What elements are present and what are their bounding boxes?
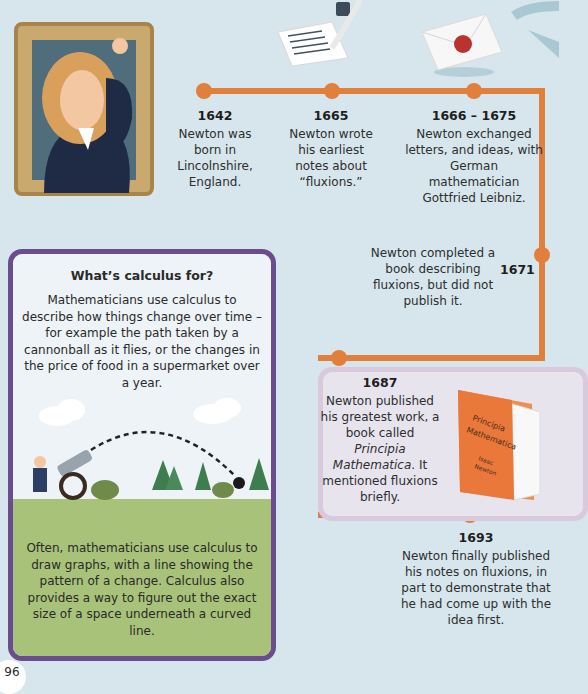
- event-1687: 1687 Newton published his greatest work,…: [320, 375, 440, 505]
- cannon-trajectory-illustration: [13, 394, 271, 504]
- principia-book-illustration: Principia Mathematica Isaac Newton: [452, 384, 544, 502]
- event-1665: 1665 Newton wrote his earliest notes abo…: [286, 108, 376, 190]
- timeline-dot-1666: [466, 83, 482, 99]
- event-text: Newton exchanged letters, and ideas, wit…: [404, 126, 544, 206]
- timeline-dot-1665: [324, 83, 340, 99]
- calculus-box-body: Often, mathematicians use calculus to dr…: [23, 540, 261, 639]
- timeline-dot-1671: [534, 247, 550, 263]
- timeline-line-middle: [318, 355, 545, 361]
- timeline-line-top: [202, 88, 545, 94]
- event-text: Newton published his greatest work, a bo…: [320, 393, 440, 505]
- curved-arrow-icon: [508, 0, 559, 70]
- newton-portrait: [14, 18, 154, 198]
- quill-paper-illustration: [270, 0, 365, 70]
- event-year: 1666 – 1675: [404, 108, 544, 123]
- book-title-italic: Principia Mathematica: [333, 442, 411, 472]
- timeline-dot-1642: [196, 83, 212, 99]
- event-text: Newton wrote his earliest notes about “f…: [286, 126, 376, 190]
- event-1666-1675: 1666 – 1675 Newton exchanged letters, an…: [404, 108, 544, 206]
- event-1642: 1642 Newton was born in Lincolnshire, En…: [170, 108, 260, 190]
- event-text: Newton completed a book describing fluxi…: [368, 245, 498, 309]
- event-year: 1665: [286, 108, 376, 123]
- envelope-illustration: [418, 8, 508, 78]
- event-text: Newton was born in Lincolnshire, England…: [170, 126, 260, 190]
- event-text-pre: Newton published his greatest work, a bo…: [321, 394, 440, 440]
- calculus-info-box: What’s calculus for? Mathematicians use …: [8, 249, 276, 661]
- event-year: 1687: [320, 375, 440, 390]
- calculus-box-title: What’s calculus for?: [13, 268, 271, 283]
- event-1693: 1693 Newton finally published his notes …: [396, 530, 556, 628]
- event-text: Newton finally published his notes on fl…: [396, 548, 556, 628]
- page-number: 96: [0, 660, 26, 694]
- event-year: 1642: [170, 108, 260, 123]
- event-year: 1693: [396, 530, 556, 545]
- event-1671: Newton completed a book describing fluxi…: [368, 245, 498, 309]
- timeline-dot-1687: [331, 350, 347, 366]
- event-year-1671: 1671: [500, 262, 534, 277]
- calculus-box-intro: Mathematicians use calculus to describe …: [21, 292, 263, 391]
